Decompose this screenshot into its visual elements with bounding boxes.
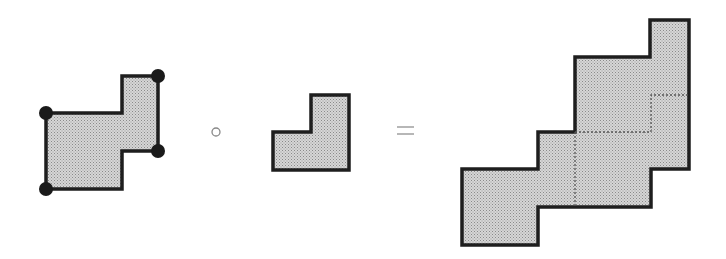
compose-operator <box>212 128 220 136</box>
vertex-dot-icon <box>151 69 165 83</box>
composition-diagram <box>0 0 726 259</box>
result-shape <box>462 20 689 245</box>
l-tile-polygon <box>273 95 349 170</box>
vertex-dot-icon <box>39 182 53 196</box>
vertex-dot-icon <box>151 144 165 158</box>
left-shape-polygon <box>46 76 158 189</box>
equals-operator <box>397 127 414 134</box>
left-operand-shape <box>39 69 165 196</box>
compose-circle-icon <box>212 128 220 136</box>
right-operand-shape <box>273 95 349 170</box>
vertex-dot-icon <box>39 106 53 120</box>
